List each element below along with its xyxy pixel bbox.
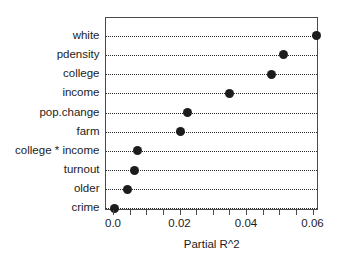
data-point (130, 166, 139, 175)
gridline (106, 132, 317, 133)
category-label: crime (0, 201, 100, 213)
data-point (176, 127, 185, 136)
x-axis-tick-label: 0.0 (105, 217, 121, 229)
x-axis-title: Partial R^2 (0, 238, 338, 250)
data-point (123, 185, 132, 194)
data-point (133, 146, 142, 155)
gridline (106, 93, 317, 94)
x-axis-tick (163, 210, 164, 215)
plot-area (105, 17, 318, 210)
gridline (106, 208, 317, 209)
gridline (106, 74, 317, 75)
x-axis-tick (313, 210, 314, 215)
data-point (279, 50, 288, 59)
category-label: college (0, 67, 100, 79)
gridline (106, 113, 317, 114)
category-label: turnout (0, 163, 100, 175)
x-axis-title-text: Partial R^2 (184, 238, 240, 250)
x-axis-tick (279, 210, 280, 215)
category-label: college * income (0, 144, 100, 156)
x-axis-tick (180, 210, 181, 215)
x-axis-tick-label: 0.06 (301, 217, 323, 229)
x-axis-tick (213, 210, 214, 215)
x-axis-tick-label: 0.02 (168, 217, 190, 229)
x-axis-tick (146, 210, 147, 215)
x-axis-tick (196, 210, 197, 215)
gridline (106, 189, 317, 190)
category-label: pdensity (0, 48, 100, 60)
data-point (225, 89, 234, 98)
dot-plot-figure: whitepdensitycollegeincomepop.changefarm… (0, 0, 338, 263)
x-axis-tick (229, 210, 230, 215)
x-axis-tick (296, 210, 297, 215)
category-label: older (0, 182, 100, 194)
x-axis-tick (246, 210, 247, 215)
data-point (267, 70, 276, 79)
x-axis-tick (130, 210, 131, 215)
data-point (312, 31, 321, 40)
x-axis-tick (263, 210, 264, 215)
x-axis-tick (113, 210, 114, 215)
gridline (106, 36, 317, 37)
data-point (183, 108, 192, 117)
category-label: farm (0, 125, 100, 137)
x-axis-tick-label: 0.04 (235, 217, 257, 229)
category-label: white (0, 29, 100, 41)
category-label: pop.change (0, 106, 100, 118)
data-point (110, 204, 119, 213)
category-label: income (0, 86, 100, 98)
